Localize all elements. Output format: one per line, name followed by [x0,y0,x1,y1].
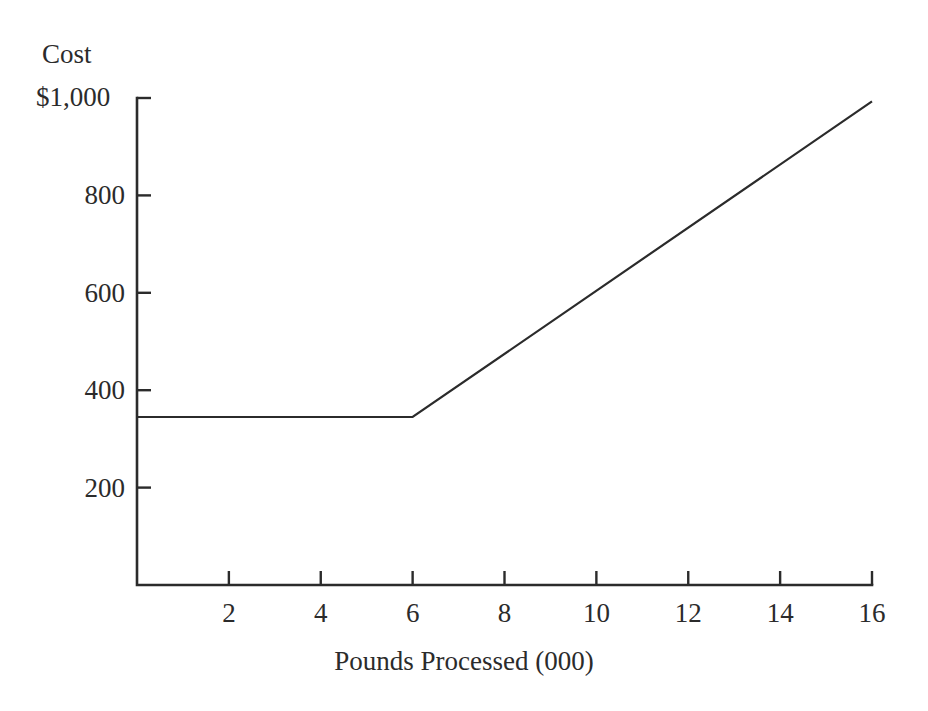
y-axis-tick-marks [137,98,151,488]
x-axis-tick-label-10: 10 [556,600,636,627]
y-axis-tick-label-800: 800 [5,182,125,209]
x-axis-tick-label-12: 12 [648,600,728,627]
y-axis-title: Cost [42,41,92,68]
cost-vs-pounds-chart: Cost $1,000 800600400200 246810121416 Po… [0,0,928,711]
x-axis-tick-label-6: 6 [373,600,453,627]
data-line-series-0 [137,101,872,417]
x-axis-tick-label-8: 8 [465,600,545,627]
y-axis-tick-label-1000: $1,000 [36,84,110,111]
x-axis-tick-label-4: 4 [281,600,361,627]
data-series-group [137,101,872,417]
x-axis-title: Pounds Processed (000) [0,648,928,675]
axis-lines [137,98,872,585]
y-axis-tick-label-600: 600 [5,280,125,307]
x-axis-tick-label-2: 2 [189,600,269,627]
axis-l-shape [137,98,872,585]
x-axis-tick-marks [229,571,872,585]
x-axis-tick-label-14: 14 [740,600,820,627]
x-axis-tick-label-16: 16 [832,600,912,627]
y-axis-tick-label-400: 400 [5,377,125,404]
y-axis-tick-label-200: 200 [5,475,125,502]
